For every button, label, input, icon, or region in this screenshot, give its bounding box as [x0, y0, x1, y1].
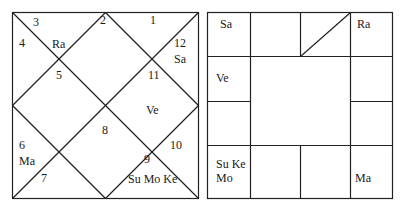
- planet-label: Sa: [220, 18, 232, 31]
- planet-label: Ra: [357, 18, 370, 31]
- south-indian-chart: SaRaVeSu KeMoMa: [0, 0, 405, 211]
- planet-label: Su Ke: [216, 158, 246, 171]
- planet-label: Ve: [216, 72, 229, 85]
- planet-label: Ma: [355, 172, 371, 185]
- south-chart-lines: [0, 0, 405, 211]
- planet-label: Mo: [216, 172, 233, 185]
